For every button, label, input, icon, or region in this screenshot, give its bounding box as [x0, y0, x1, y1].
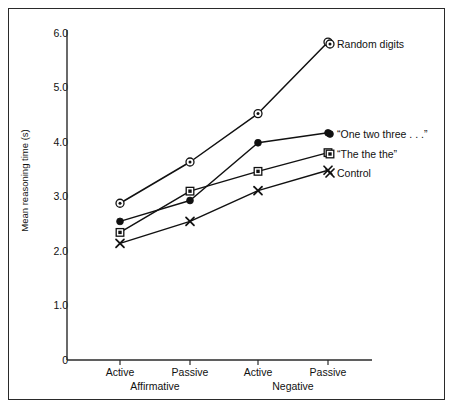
data-point	[186, 158, 194, 166]
series-1	[116, 38, 334, 207]
x-axis-ticks	[120, 360, 328, 365]
axes	[67, 30, 372, 365]
series-line	[120, 133, 328, 222]
series-3	[116, 149, 334, 236]
data-series-layer	[116, 38, 334, 247]
legend-marker	[326, 150, 334, 158]
data-point	[254, 168, 262, 176]
data-point	[186, 187, 194, 195]
legend-marker	[327, 131, 334, 138]
plot-area	[0, 0, 462, 409]
data-point	[116, 199, 124, 207]
series-4	[116, 166, 334, 247]
data-point	[254, 187, 262, 195]
data-point	[117, 218, 124, 225]
legend-marker	[326, 169, 334, 177]
data-point	[255, 139, 262, 146]
series-line	[120, 153, 328, 233]
data-point	[254, 110, 262, 118]
data-point	[116, 229, 124, 237]
data-point	[187, 197, 194, 204]
data-point	[116, 239, 124, 247]
series-2	[117, 129, 334, 224]
legend-marker	[326, 40, 334, 48]
data-point	[186, 217, 194, 225]
chart-figure: Mean reasoning time (s) 6.0 5.0 4.0 3.0 …	[0, 0, 462, 409]
